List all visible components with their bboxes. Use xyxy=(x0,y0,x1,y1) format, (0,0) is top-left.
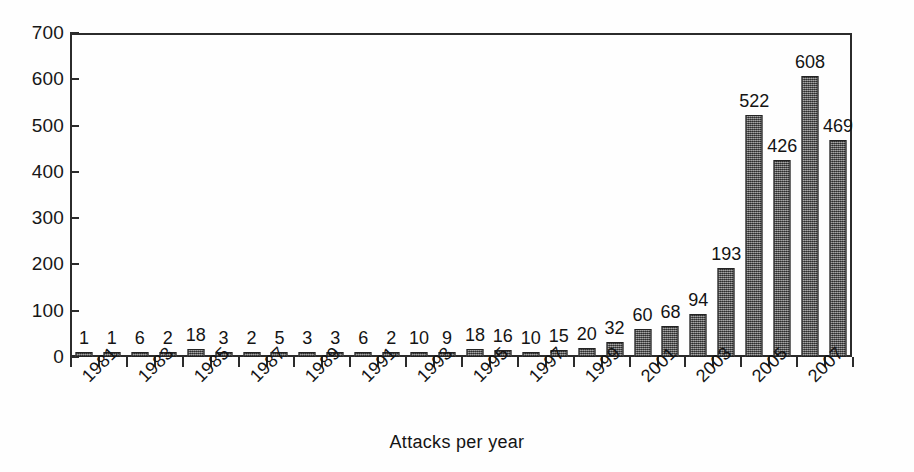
bar-chart: 0100200300400500600700 11621832533621091… xyxy=(0,0,914,472)
bar-value-label: 426 xyxy=(767,136,797,157)
bar xyxy=(578,348,595,357)
x-tick-mark xyxy=(852,357,854,367)
bar-value-label: 20 xyxy=(577,324,597,345)
bar-value-label: 522 xyxy=(739,91,769,112)
bar-group: 3 xyxy=(293,33,321,357)
bar-group: 2 xyxy=(154,33,182,357)
bar-group: 10 xyxy=(517,33,545,357)
bar-group: 608 xyxy=(796,33,824,357)
bar-value-label: 469 xyxy=(823,116,853,137)
bar-group: 469 xyxy=(824,33,852,357)
x-tick-mark xyxy=(182,357,184,367)
x-tick-mark xyxy=(126,357,128,367)
bar-group: 1 xyxy=(70,33,98,357)
x-tick-mark xyxy=(70,357,72,367)
bar xyxy=(131,352,148,357)
bars-layer: 1162183253362109181610152032606894193522… xyxy=(70,33,852,357)
bar-group: 6 xyxy=(126,33,154,357)
bar xyxy=(355,352,372,357)
bar-group: 10 xyxy=(405,33,433,357)
bar xyxy=(690,314,707,358)
bar-value-label: 6 xyxy=(358,328,368,349)
bar-group: 3 xyxy=(210,33,238,357)
y-tick-label: 600 xyxy=(32,68,64,90)
bar-value-label: 60 xyxy=(633,305,653,326)
bar xyxy=(299,352,316,357)
bar-group: 68 xyxy=(657,33,685,357)
bar-group: 15 xyxy=(545,33,573,357)
y-tick-label: 500 xyxy=(32,115,64,137)
y-tick-label: 100 xyxy=(32,300,64,322)
x-tick-mark xyxy=(740,357,742,367)
x-tick-mark xyxy=(349,357,351,367)
bar-group: 18 xyxy=(182,33,210,357)
bar-group: 426 xyxy=(768,33,796,357)
bar-group: 5 xyxy=(266,33,294,357)
y-tick-label: 400 xyxy=(32,161,64,183)
bar-group: 2 xyxy=(377,33,405,357)
bar xyxy=(830,140,847,357)
bar xyxy=(243,352,260,357)
bar-value-label: 608 xyxy=(795,52,825,73)
bar-group: 60 xyxy=(629,33,657,357)
bar xyxy=(522,352,539,357)
x-tick-mark xyxy=(461,357,463,367)
bar-value-label: 94 xyxy=(688,290,708,311)
bar-value-label: 18 xyxy=(186,325,206,346)
bar-value-label: 3 xyxy=(302,328,312,349)
x-tick-mark xyxy=(405,357,407,367)
bar xyxy=(746,115,763,357)
bar-value-label: 2 xyxy=(247,328,257,349)
bar-group: 18 xyxy=(461,33,489,357)
bar-value-label: 193 xyxy=(711,244,741,265)
y-axis: 0100200300400500600700 xyxy=(0,0,64,472)
bar-value-label: 68 xyxy=(660,302,680,323)
bar xyxy=(466,349,483,357)
bar xyxy=(411,352,428,357)
x-tick-mark xyxy=(573,357,575,367)
bar-value-label: 32 xyxy=(605,318,625,339)
x-tick-mark xyxy=(796,357,798,367)
y-tick-label: 700 xyxy=(32,22,64,44)
bar-group: 9 xyxy=(433,33,461,357)
bar-group: 6 xyxy=(349,33,377,357)
bar-value-label: 18 xyxy=(465,325,485,346)
bar xyxy=(75,352,92,357)
bar-value-label: 10 xyxy=(521,328,541,349)
bar-group: 193 xyxy=(712,33,740,357)
y-tick-label: 0 xyxy=(53,346,64,368)
x-tick-mark xyxy=(238,357,240,367)
y-tick-label: 300 xyxy=(32,207,64,229)
bar-group: 16 xyxy=(489,33,517,357)
bar xyxy=(634,329,651,357)
x-tick-mark xyxy=(517,357,519,367)
x-tick-mark xyxy=(684,357,686,367)
bar xyxy=(802,76,819,357)
bar-value-label: 6 xyxy=(135,328,145,349)
bar-group: 522 xyxy=(740,33,768,357)
bar xyxy=(774,160,791,357)
x-tick-mark xyxy=(629,357,631,367)
bar-group: 1 xyxy=(98,33,126,357)
x-axis-title: Attacks per year xyxy=(0,432,914,453)
y-tick-label: 200 xyxy=(32,253,64,275)
bar xyxy=(187,349,204,357)
bar-group: 20 xyxy=(573,33,601,357)
bar-group: 32 xyxy=(601,33,629,357)
bar-value-label: 10 xyxy=(409,328,429,349)
bar-group: 2 xyxy=(238,33,266,357)
bar-group: 94 xyxy=(684,33,712,357)
bar-group: 3 xyxy=(321,33,349,357)
bar-value-label: 1 xyxy=(79,328,89,349)
x-tick-mark xyxy=(293,357,295,367)
